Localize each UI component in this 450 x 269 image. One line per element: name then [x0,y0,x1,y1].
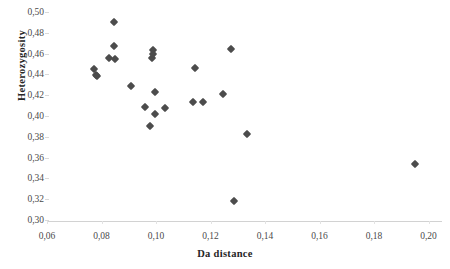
data-point [161,103,169,111]
data-point [146,122,154,130]
scatter-chart: 0,300,320,340,360,380,400,420,440,460,48… [0,0,450,269]
data-points-layer [0,0,450,269]
data-point [191,63,199,71]
data-point [92,72,100,80]
y-axis-title: Heterozygosity [16,1,27,131]
data-point [199,98,207,106]
data-point [110,42,118,50]
data-point [151,110,159,118]
data-point [227,45,235,53]
data-point [219,90,227,98]
data-point [127,82,135,90]
data-point [151,88,159,96]
data-point [243,130,251,138]
data-point [110,18,118,26]
data-point [189,98,197,106]
data-point [111,55,119,63]
data-point [411,160,419,168]
x-axis-title: Da distance [0,248,450,259]
plot-area: 0,300,320,340,360,380,400,420,440,460,48… [0,0,450,269]
data-point [141,102,149,110]
data-point [229,197,237,205]
